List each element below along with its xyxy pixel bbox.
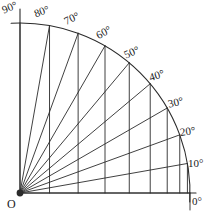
origin-label: O <box>7 198 16 210</box>
protractor-figure: 0°10°20°30°40°50°60°70°80°90° O <box>0 0 211 217</box>
quarter-arc <box>11 23 190 202</box>
angle-label-20: 20° <box>179 125 196 138</box>
origin-point <box>17 190 24 197</box>
angle-label-10: 10° <box>188 158 203 169</box>
angle-label-0: 0° <box>192 196 202 207</box>
